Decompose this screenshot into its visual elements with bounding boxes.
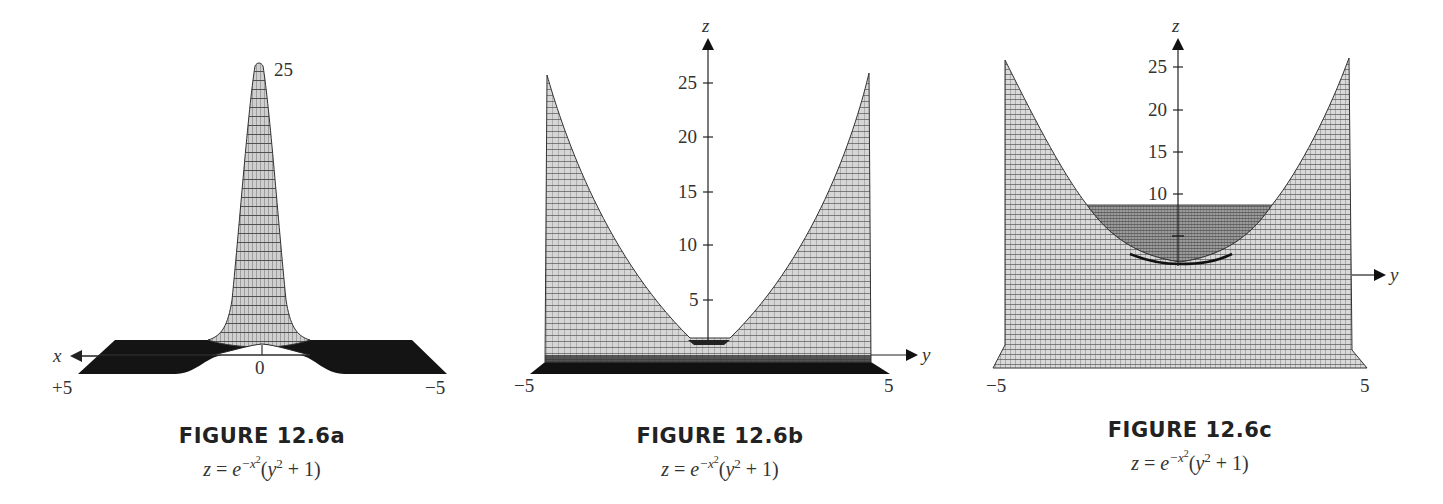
y-axis-arrow-icon: [906, 349, 918, 361]
z-axis-arrow-icon: [702, 38, 714, 50]
z-axis-label: z: [1171, 15, 1180, 36]
z-tick-20: 20: [678, 126, 697, 147]
figure-equation: z = e−x2(y2 + 1): [132, 448, 392, 481]
figure-12-6a-plot: [70, 63, 447, 374]
z-axis-arrow-icon: [1172, 38, 1184, 50]
z-tick-25: 25: [1148, 56, 1167, 77]
y-axis-label: y: [920, 344, 931, 365]
y-axis-label: y: [1388, 264, 1399, 285]
z-tick-15: 15: [1148, 141, 1167, 162]
right-end-label: −5: [425, 377, 445, 398]
left-end-label: +5: [52, 377, 72, 398]
left-end-label: −5: [514, 375, 534, 396]
z-tick-10: 10: [1148, 183, 1167, 204]
y-axis-arrow-icon: [1374, 269, 1386, 281]
z-axis-label: z: [701, 15, 710, 36]
figure-equation: z = e−x2(y2 + 1): [590, 448, 850, 481]
figure-12-6c-caption: FIGURE 12.6c z = e−x2(y2 + 1): [1060, 418, 1320, 475]
figure-title: FIGURE 12.6c: [1060, 418, 1320, 442]
figure-title: FIGURE 12.6b: [590, 424, 850, 448]
figure-12-6b-plot: [530, 38, 918, 374]
z-tick-5: 5: [689, 289, 699, 310]
z-tick-20: 20: [1148, 99, 1167, 120]
z-tick-15: 15: [678, 181, 697, 202]
figure-12-6c-plot: [993, 38, 1386, 368]
z-tick-25: 25: [678, 72, 697, 93]
peak-label: 25: [274, 59, 293, 80]
figure-12-6b-caption: FIGURE 12.6b z = e−x2(y2 + 1): [590, 424, 850, 481]
surface-peak: [208, 63, 310, 347]
z-tick-10: 10: [678, 234, 697, 255]
left-end-label: −5: [986, 375, 1006, 396]
origin-label: 0: [255, 357, 265, 378]
right-end-label: 5: [884, 375, 894, 396]
x-axis-label: x: [52, 345, 62, 366]
figure-12-6a-caption: FIGURE 12.6a z = e−x2(y2 + 1): [132, 424, 392, 481]
right-end-label: 5: [1360, 375, 1370, 396]
figure-title: FIGURE 12.6a: [132, 424, 392, 448]
figure-equation: z = e−x2(y2 + 1): [1060, 442, 1320, 475]
